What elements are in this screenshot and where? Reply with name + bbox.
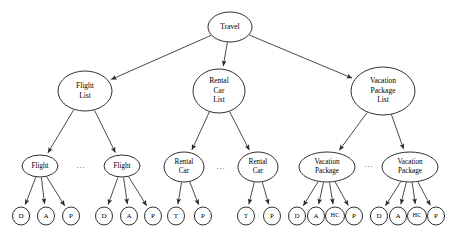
node-label-vp2-hc: HC [413,211,422,218]
node-vp2-d[interactable]: D [371,207,388,225]
edge-layer [25,35,430,206]
tree-diagram-canvas: TravelFlightListRentalCarListVacationPac… [0,0,456,238]
node-vacation-package-2[interactable]: VacationPackage [382,152,438,182]
node-label-vacation-package-1: Vacation [314,158,340,166]
node-label-rc1-p: P [201,212,205,220]
node-f1-a[interactable]: A [38,207,55,225]
node-flight-1[interactable]: Flight [22,155,58,177]
node-label-rental-car-list: Car [214,86,225,95]
node-rental-car-1[interactable]: RentalCar [164,152,204,182]
edge-flight-1-to-f1-p [47,177,65,206]
edge-rental-car-2-to-rc2-p [262,182,268,204]
node-label-f1-p: P [69,212,73,220]
edge-rental-car-list-to-rental-car-2 [230,112,250,150]
node-label-vacation-package-list: List [377,95,390,104]
edge-vacation-package-2-to-vp2-a [401,182,406,204]
edge-rental-car-1-to-rc1-p [190,182,199,205]
ellipsis-flights: ... [77,161,86,170]
edge-flight-2-to-f2-p [129,177,147,206]
node-label-rc1-t: T [174,212,179,220]
node-label-vp1-a: A [313,212,318,220]
node-label-rental-car-list: Rental [209,76,229,85]
node-label-vacation-package-list: Vacation [370,76,396,85]
node-vp2-hc[interactable]: HC [408,207,427,225]
node-label-f1-a: A [43,212,48,220]
node-label-vp1-d: D [294,212,299,220]
node-vp1-d[interactable]: D [289,207,306,225]
node-label-f2-a: A [126,212,131,220]
edge-flight-1-to-f1-d [25,177,35,204]
node-vp1-a[interactable]: A [308,207,325,225]
tree-diagram-root: TravelFlightListRentalCarListVacationPac… [0,0,456,238]
edge-vacation-package-2-to-vp2-d [385,182,400,206]
node-vp1-hc[interactable]: HC [326,207,345,225]
node-label-rental-car-1: Rental [175,158,194,166]
node-flight-2[interactable]: Flight [104,155,140,177]
ellipsis-vacation-packages: ... [365,160,374,169]
node-label-vp1-p: P [352,212,356,220]
node-label-vp2-d: D [376,212,381,220]
node-f2-p[interactable]: P [145,207,162,225]
node-label-vacation-package-2: Vacation [397,158,423,166]
edge-travel-to-rental-car-list [223,42,227,66]
edge-vacation-package-list-to-vacation-package-1 [339,112,367,150]
node-label-vacation-package-2: Package [398,167,422,175]
node-f1-p[interactable]: P [63,207,80,225]
node-label-flight-2: Flight [113,162,130,170]
node-rc2-t[interactable]: T [238,207,255,225]
node-label-vp2-p: P [434,212,438,220]
node-f2-d[interactable]: D [96,207,113,225]
node-vp2-a[interactable]: A [390,207,407,225]
node-f1-d[interactable]: D [13,207,30,225]
edge-vacation-package-1-to-vp1-hc [330,182,334,204]
node-rc1-t[interactable]: T [168,207,185,225]
edge-rental-car-1-to-rc1-t [178,182,182,204]
edge-vacation-package-1-to-vp1-a [319,182,324,204]
edge-vacation-package-2-to-vp2-hc [412,182,415,203]
edge-travel-to-flight-list [111,35,211,79]
node-rc2-p[interactable]: P [264,207,281,225]
edge-vacation-package-2-to-vp2-p [418,182,430,205]
node-f2-a[interactable]: A [121,207,138,225]
edge-flight-2-to-f2-a [124,177,128,203]
edge-rental-car-list-to-rental-car-1 [192,112,209,150]
node-label-rental-car-list: List [213,95,226,104]
node-label-vp2-a: A [395,212,400,220]
node-label-travel: Travel [220,22,239,31]
edge-vacation-package-1-to-vp1-p [335,182,348,206]
edge-flight-2-to-f2-d [108,177,118,204]
node-label-flight-list: Flight [76,81,95,90]
edge-vacation-package-1-to-vp1-d [303,182,318,206]
node-label-vacation-package-1: Package [315,167,339,175]
node-label-flight-list: List [79,91,92,100]
node-vp1-p[interactable]: P [346,207,363,225]
edge-flight-list-to-flight-2 [94,110,115,152]
node-vacation-package-list[interactable]: VacationPackageList [351,67,415,115]
node-label-f1-d: D [18,212,23,220]
edge-flight-list-to-flight-1 [48,110,74,153]
edge-flight-1-to-f1-a [41,177,44,203]
node-vacation-package-1[interactable]: VacationPackage [299,152,355,182]
node-label-f2-p: P [151,212,155,220]
edge-travel-to-vacation-package-list [249,35,352,78]
node-vp2-p[interactable]: P [428,207,445,225]
node-label-flight-1: Flight [31,162,48,170]
node-rental-car-2[interactable]: RentalCar [238,152,278,182]
node-flight-list[interactable]: FlightList [58,71,112,111]
node-label-vp1-hc: HC [331,211,340,218]
node-label-rental-car-2: Rental [249,158,268,166]
node-travel[interactable]: Travel [208,12,252,42]
node-label-rc2-t: T [244,212,249,220]
node-rc1-p[interactable]: P [195,207,212,225]
node-label-rc2-p: P [270,212,274,220]
node-rental-car-list[interactable]: RentalCarList [193,69,245,113]
node-label-vacation-package-list: Package [371,86,397,95]
node-label-f2-d: D [101,212,106,220]
node-label-rental-car-1: Car [179,167,190,175]
edge-vacation-package-list-to-vacation-package-2 [391,115,403,150]
edge-rental-car-2-to-rc2-t [249,182,254,204]
node-label-rental-car-2: Car [253,167,264,175]
ellipsis-rental-cars: ... [217,162,226,171]
node-layer: TravelFlightListRentalCarListVacationPac… [13,12,445,225]
